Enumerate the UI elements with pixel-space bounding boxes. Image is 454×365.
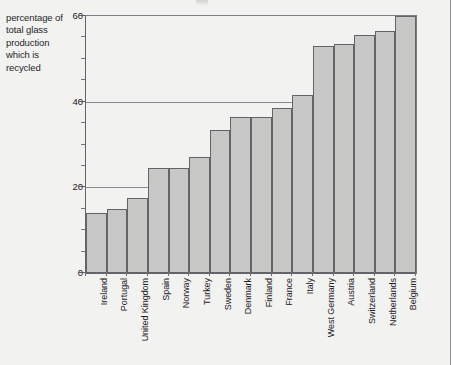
x-tick [147, 272, 148, 276]
x-axis-label: Switzerland [367, 278, 377, 324]
x-axis-label: Finland [264, 278, 274, 307]
x-axis-labels: IrelandPortugalUnited KingdomSpainNorway… [85, 272, 415, 364]
bar [107, 209, 128, 273]
x-axis-label: Netherlands [388, 278, 398, 326]
x-tick [106, 272, 107, 276]
bar [272, 108, 293, 273]
x-tick [209, 272, 210, 276]
bar [169, 168, 190, 273]
bar [292, 95, 313, 273]
bar [189, 157, 210, 273]
x-axis-label: Ireland [99, 278, 109, 305]
x-axis-label: France [284, 278, 294, 306]
bar [148, 168, 169, 273]
y-axis: 0204060 [55, 15, 83, 272]
bar [375, 31, 396, 273]
x-axis-label: Belgium [408, 278, 418, 310]
x-tick [374, 272, 375, 276]
x-tick [250, 272, 251, 276]
x-axis-label: Sweden [223, 278, 233, 310]
x-tick [229, 272, 230, 276]
x-axis-label: Italy [305, 278, 315, 294]
x-tick [415, 272, 416, 276]
x-axis-label: West Germany [326, 278, 336, 337]
bar [230, 117, 251, 273]
x-tick [188, 272, 189, 276]
bar [395, 16, 416, 273]
bar [354, 35, 375, 273]
x-axis-label: Portugal [119, 278, 129, 311]
x-tick [333, 272, 334, 276]
bar [210, 130, 231, 273]
x-tick [85, 272, 86, 276]
x-tick [353, 272, 354, 276]
bar [127, 198, 148, 273]
plot-area [85, 15, 417, 274]
bar [86, 213, 107, 273]
x-axis-label: Denmark [243, 278, 253, 314]
x-axis-label: Norway [181, 278, 191, 308]
plot-inner [86, 16, 416, 273]
page-edge [450, 0, 454, 365]
scan-artifact [196, 0, 208, 6]
bar [334, 44, 355, 273]
x-axis-label: Turkey [202, 278, 212, 305]
x-tick [291, 272, 292, 276]
x-axis-label: Austria [346, 278, 356, 306]
x-axis-label: United Kingdom [140, 278, 150, 341]
x-tick [168, 272, 169, 276]
x-tick [271, 272, 272, 276]
bar [313, 46, 334, 273]
chart-page: percentage of total glass production whi… [0, 0, 454, 365]
x-tick [126, 272, 127, 276]
x-tick [312, 272, 313, 276]
x-tick [394, 272, 395, 276]
x-axis-label: Spain [161, 278, 171, 301]
bar [251, 117, 272, 273]
